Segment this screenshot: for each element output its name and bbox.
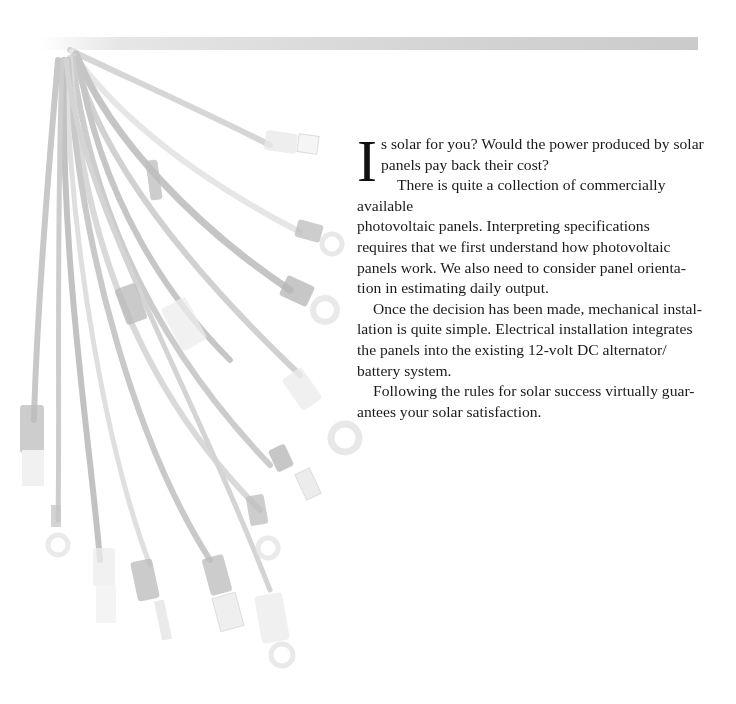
text-line: the panels into the existing 12-volt DC … [357, 341, 667, 358]
text-line: tion in estimating daily output. [357, 279, 549, 296]
text-line: Once the decision has been made, mechani… [373, 300, 702, 317]
intro-paragraph-1: I s solar for you? Would the power produ… [357, 134, 707, 175]
text-line: s solar for you? Would the power produce… [357, 134, 707, 155]
intro-paragraph-3: Once the decision has been made, mechani… [357, 299, 707, 381]
text-line: lation is quite simple. Electrical insta… [357, 320, 693, 337]
text-line: panels pay back their cost? [357, 155, 707, 176]
text-line: There is quite a collection of commercia… [357, 176, 665, 214]
text-line: requires that we first understand how ph… [357, 238, 671, 255]
intro-paragraph-2: There is quite a collection of commercia… [357, 175, 707, 299]
intro-paragraph-4: Following the rules for solar success vi… [357, 381, 707, 422]
drop-cap: I [357, 137, 377, 183]
text-line: panels work. We also need to consider pa… [357, 259, 686, 276]
intro-text: I s solar for you? Would the power produ… [357, 134, 707, 422]
text-line: photovoltaic panels. Interpreting specif… [357, 217, 650, 234]
text-line: battery system. [357, 362, 451, 379]
text-line: Following the rules for solar success vi… [373, 382, 694, 399]
text-line: antees your solar satisfaction. [357, 403, 541, 420]
